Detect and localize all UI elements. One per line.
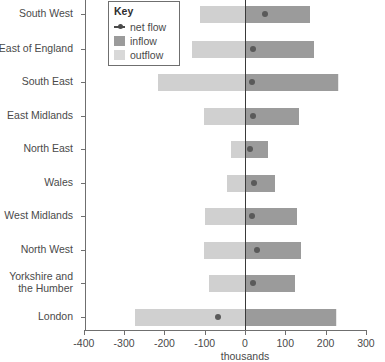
y-axis-tick — [81, 250, 86, 251]
outflow-swatch-icon — [114, 50, 125, 60]
y-axis-tick — [81, 82, 86, 83]
legend-title: Key — [114, 5, 174, 17]
net-flow-point — [247, 146, 253, 152]
y-axis-tick — [81, 183, 86, 184]
net-flow-point — [249, 213, 255, 219]
migration-flow-chart: South WestEast of EnglandSouth EastEast … — [0, 0, 385, 362]
x-axis-tick — [124, 330, 125, 335]
bar-inflow — [245, 309, 337, 326]
bar-outflow — [204, 242, 245, 259]
y-axis-tick — [81, 116, 86, 117]
bar-outflow — [204, 108, 245, 125]
y-axis-label: South West — [0, 8, 79, 20]
bar-outflow — [135, 309, 245, 326]
y-axis-label: London — [0, 311, 79, 323]
x-axis-spine — [85, 330, 366, 331]
net-flow-point — [215, 314, 221, 320]
bar-outflow — [231, 141, 245, 158]
x-axis-tick-label: -400 — [73, 337, 94, 349]
net-flow-point — [250, 46, 256, 52]
bar-inflow — [245, 175, 275, 192]
plot-area: South WestEast of EnglandSouth EastEast … — [0, 0, 385, 362]
x-axis-tick-label: 100 — [277, 337, 295, 349]
bar-outflow — [227, 175, 245, 192]
x-axis-tick — [245, 330, 246, 335]
y-axis-tick — [81, 317, 86, 318]
bar-inflow — [245, 74, 339, 91]
x-axis-tick — [164, 330, 165, 335]
bar-outflow — [192, 41, 245, 58]
bar-outflow — [205, 208, 245, 225]
x-axis-tick — [285, 330, 286, 335]
bar-inflow — [245, 6, 310, 23]
x-axis-tick-label: -200 — [154, 337, 175, 349]
x-axis-tick-label: -100 — [194, 337, 215, 349]
net-flow-point — [251, 180, 257, 186]
x-axis-tick-label: 0 — [242, 337, 248, 349]
legend-item-outflow: outflow — [114, 48, 174, 61]
y-axis-label: East of England — [0, 43, 79, 55]
y-axis-label: Wales — [0, 177, 79, 189]
y-axis-label: Yorkshire andthe Humber — [0, 271, 79, 294]
x-axis-tick — [326, 330, 327, 335]
x-axis-tick-label: 300 — [357, 337, 375, 349]
legend-label-outflow: outflow — [130, 49, 163, 61]
y-axis-label: South East — [0, 76, 79, 88]
y-axis-label: East Midlands — [0, 110, 79, 122]
y-axis-tick — [81, 216, 86, 217]
legend-label-inflow: inflow — [130, 35, 157, 47]
x-axis-tick — [205, 330, 206, 335]
net-flow-point — [249, 79, 255, 85]
net-flow-point — [250, 113, 256, 119]
x-axis-tick-label: -300 — [114, 337, 135, 349]
y-axis-label: West Midlands — [0, 210, 79, 222]
inflow-swatch-icon — [114, 36, 125, 46]
bar-outflow — [209, 275, 245, 292]
legend-item-net-flow: net flow — [114, 20, 174, 33]
x-axis-tick-label: 200 — [317, 337, 335, 349]
y-axis-label: North East — [0, 143, 79, 155]
x-axis-tick — [84, 330, 85, 335]
net-flow-point — [262, 11, 268, 17]
y-axis-tick — [81, 283, 86, 284]
legend-label-net-flow: net flow — [130, 21, 166, 33]
net-flow-point — [250, 280, 256, 286]
y-axis-tick — [81, 49, 86, 50]
bar-outflow — [200, 6, 245, 23]
legend-item-inflow: inflow — [114, 34, 174, 47]
bar-outflow — [158, 74, 245, 91]
y-axis-label: North West — [0, 244, 79, 256]
legend: Key net flow inflow outflow — [108, 1, 180, 66]
y-axis-tick — [81, 149, 86, 150]
x-axis-title: thousands — [221, 350, 269, 362]
zero-reference-line — [245, 0, 246, 330]
net-flow-marker-icon — [114, 22, 125, 32]
net-flow-point — [254, 247, 260, 253]
x-axis-tick — [366, 330, 367, 335]
y-axis-tick — [81, 14, 86, 15]
